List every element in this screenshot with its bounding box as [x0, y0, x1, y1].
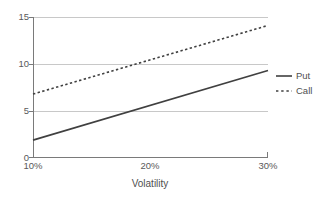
- legend-solid-line-icon: [276, 71, 292, 81]
- line-chart: 15 10 5 0 10% 20% 30% Volatility: [0, 0, 328, 200]
- plot-area: [33, 17, 268, 158]
- legend-item-put[interactable]: Put: [276, 68, 328, 83]
- legend-label-put: Put: [296, 71, 310, 81]
- x-axis-title: Volatility: [0, 178, 300, 189]
- y-tick-label-15: 15: [3, 12, 29, 22]
- y-tick-label-10: 10: [3, 59, 29, 69]
- legend-item-call[interactable]: Call: [276, 83, 328, 98]
- x-tick-label-10pct: 10%: [13, 161, 53, 171]
- series-plot: [33, 17, 268, 158]
- y-tick-label-5: 5: [3, 106, 29, 116]
- legend-dotted-line-icon: [276, 86, 292, 96]
- x-tick-label-30pct: 30%: [248, 161, 288, 171]
- x-tick-label-20pct: 20%: [130, 161, 170, 171]
- series-line-call: [33, 25, 268, 94]
- chart-legend: Put Call: [276, 68, 328, 98]
- series-line-put: [33, 71, 268, 141]
- legend-label-call: Call: [296, 86, 312, 96]
